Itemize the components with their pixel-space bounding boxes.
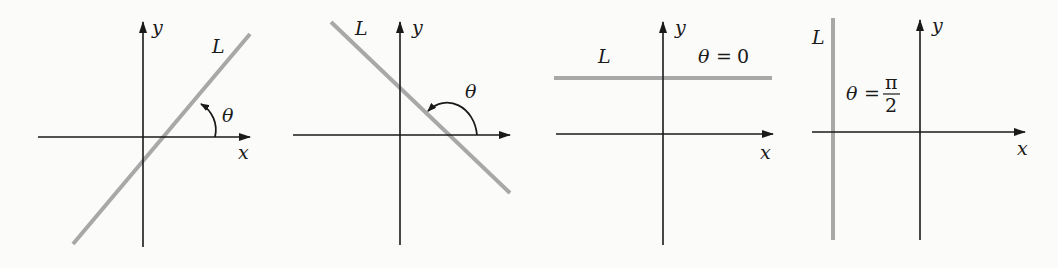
angle-value: 0	[737, 45, 749, 67]
line-L	[331, 22, 510, 193]
y-axis-label: y	[151, 16, 163, 38]
panel-positive-slope: y L θ x	[38, 16, 250, 247]
angle-equals: =	[716, 45, 732, 67]
y-axis-label: y	[931, 14, 943, 36]
x-axis-label: x	[238, 141, 249, 163]
angle-label: θ	[846, 82, 858, 104]
y-axis-label: y	[674, 16, 686, 38]
angle-label: θ	[465, 80, 477, 102]
panel-negative-slope: L y θ	[293, 16, 510, 245]
y-axis-label: y	[411, 16, 423, 38]
line-label: L	[354, 17, 368, 39]
angle-numerator: π	[885, 71, 898, 93]
inclination-angle-figure: y L θ x L y θ y L θ = 0 x L y θ = π 2 x	[0, 0, 1058, 268]
angle-denominator: 2	[885, 94, 897, 116]
line-L	[73, 34, 250, 244]
angle-label: θ	[698, 45, 710, 67]
angle-equals: =	[864, 82, 880, 104]
angle-arc-icon	[201, 104, 216, 137]
x-axis-label: x	[760, 141, 771, 163]
panel-horizontal-line: y L θ = 0 x	[554, 16, 773, 245]
line-label: L	[597, 45, 611, 67]
angle-arc-icon	[428, 103, 477, 135]
x-axis-label: x	[1017, 137, 1028, 159]
panel-vertical-line: L y θ = π 2 x	[811, 14, 1028, 240]
line-label: L	[811, 26, 825, 48]
line-label: L	[211, 35, 225, 57]
angle-label: θ	[222, 104, 234, 126]
